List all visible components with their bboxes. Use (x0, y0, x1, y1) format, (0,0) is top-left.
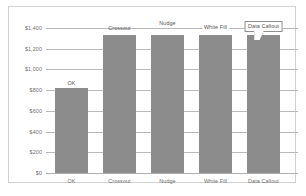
ytick-label-600: $600 (30, 108, 42, 114)
xtick-label-crossout: Crossout (108, 178, 130, 184)
ytick-label-400: $400 (30, 129, 42, 135)
data-callout-bubble[interactable]: Data Callout (244, 21, 283, 33)
data-label-ok: OK (68, 80, 76, 87)
xtick-label-data-callout: Data Callout (248, 178, 279, 184)
data-label-white-fill: White Fill (202, 24, 229, 31)
bar-white-fill[interactable] (199, 35, 232, 173)
gridline-0-baseline: $0 (46, 173, 298, 174)
data-callout-label: Data Callout (248, 23, 279, 29)
bar-data-callout[interactable] (247, 35, 280, 173)
data-callout-box: Data Callout (244, 21, 283, 33)
bar-ok[interactable] (55, 88, 88, 173)
ytick-label-1200: $1,200 (25, 46, 42, 52)
bar-crossout[interactable] (103, 35, 136, 173)
plot-area: $1,400 $1,200 $1,000 $800 $600 $400 $200… (46, 28, 298, 173)
xtick-label-white-fill: White Fill (204, 178, 227, 184)
ytick-label-1400: $1,400 (25, 25, 42, 31)
ytick-label-1000: $1,000 (25, 66, 42, 72)
chart-screenshot: $1,400 $1,200 $1,000 $800 $600 $400 $200… (0, 0, 306, 196)
xtick-label-ok: OK (68, 178, 76, 184)
data-label-nudge: Nudge (159, 20, 175, 27)
xtick-label-nudge: Nudge (159, 178, 175, 184)
ytick-label-800: $800 (30, 87, 42, 93)
bar-nudge[interactable] (151, 35, 184, 173)
ytick-label-0: $0 (36, 170, 42, 176)
ytick-label-200: $200 (30, 149, 42, 155)
data-callout-tail-icon (254, 31, 263, 40)
chart-frame: $1,400 $1,200 $1,000 $800 $600 $400 $200… (8, 6, 296, 183)
data-label-crossout: Crossout (108, 25, 130, 32)
